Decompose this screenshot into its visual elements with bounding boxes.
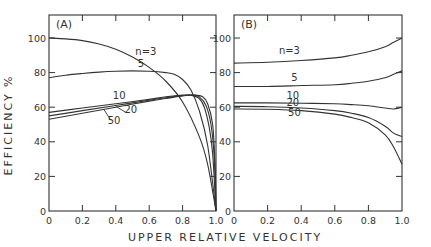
x-tick-label: 0.6 <box>327 215 342 226</box>
series-label: 50 <box>108 115 121 126</box>
x-tick-label: 0 <box>46 215 52 226</box>
series-label: 5 <box>138 58 144 69</box>
series-label: 20 <box>124 104 137 115</box>
y-tick-label: 0 <box>225 206 231 217</box>
y-tick-label: 40 <box>219 136 231 147</box>
x-tick-label: 0.6 <box>142 215 157 226</box>
series-label: n=3 <box>135 46 156 57</box>
x-tick-label: 1.0 <box>394 215 409 226</box>
x-axis-label: UPPER RELATIVE VELOCITY <box>128 231 322 244</box>
series-label: 10 <box>113 90 126 101</box>
y-tick-label: 20 <box>219 171 231 182</box>
y-tick-label: 40 <box>34 136 46 147</box>
y-tick-label: 80 <box>34 67 46 78</box>
y-tick-label: 100 <box>213 33 231 44</box>
plot-frame <box>234 15 402 211</box>
efficiency-figure: (A)00.20.40.60.81.0020406080100n=3510205… <box>0 0 431 247</box>
panel-a: (A)00.20.40.60.81.0020406080100n=3510205… <box>28 15 224 226</box>
x-tick-label: 0.2 <box>75 215 90 226</box>
panel-label: (A) <box>56 18 72 31</box>
series-line <box>49 38 216 211</box>
x-tick-label: 0.4 <box>108 215 123 226</box>
x-tick-label: 0.2 <box>260 215 275 226</box>
panel-label: (B) <box>241 18 257 31</box>
series-line <box>234 38 402 63</box>
y-tick-label: 100 <box>28 33 46 44</box>
series-label: n=3 <box>279 45 300 56</box>
series-label: 5 <box>291 72 297 83</box>
series-line <box>234 106 402 136</box>
series-line <box>49 71 216 211</box>
y-tick-label: 80 <box>219 67 231 78</box>
x-tick-label: 0.8 <box>175 215 190 226</box>
series-label: 50 <box>288 107 301 118</box>
x-tick-label: 1.0 <box>208 215 223 226</box>
y-tick-label: 20 <box>34 171 46 182</box>
y-tick-label: 60 <box>219 102 231 113</box>
x-tick-label: 0.4 <box>294 215 309 226</box>
y-tick-label: 0 <box>40 206 46 217</box>
y-axis-label: EFFICIENCY % <box>2 74 15 175</box>
x-tick-label: 0 <box>231 215 237 226</box>
series-line <box>234 103 402 109</box>
y-tick-label: 60 <box>34 102 46 113</box>
panel-b: (B)00.20.40.60.81.0020406080100n=3510205… <box>213 15 410 226</box>
x-tick-label: 0.8 <box>361 215 376 226</box>
series-line <box>234 109 402 164</box>
series-line <box>234 71 402 87</box>
